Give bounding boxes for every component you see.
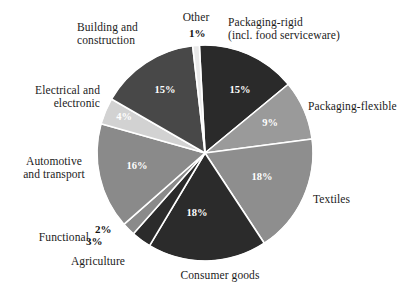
slice-label-consumer-goods: Consumer goods: [150, 269, 290, 282]
slice-label-packaging-flexible: Packaging-flexible: [308, 100, 416, 113]
slice-label-functional: Functional: [14, 231, 89, 244]
slice-label-packaging-rigid: Packaging-rigid (incl. food serviceware): [228, 16, 413, 42]
slice-percent-building-and-construction: 15%: [155, 84, 176, 95]
pie-chart-canvas: 15%9%18%18%16%4%15%: [0, 0, 416, 296]
slice-label-electrical-and-electronic: Electrical and electronic: [8, 84, 100, 110]
slice-percent-functional: 2%: [95, 223, 112, 235]
slice-label-other: Other: [166, 11, 226, 24]
slice-percent-other: 1%: [189, 27, 206, 39]
slice-label-automotive-and-transport: Automotive and transport: [6, 155, 102, 181]
slice-percent-packaging-flexible: 9%: [262, 117, 278, 128]
slice-percent-packaging-rigid: 15%: [230, 84, 251, 95]
slice-label-textiles: Textiles: [313, 193, 383, 206]
slice-label-building-and-construction: Building and construction: [77, 21, 177, 47]
pie-chart-figure: 15%9%18%18%16%4%15% Packaging-rigid (inc…: [0, 0, 416, 296]
slice-percent-automotive-and-transport: 16%: [127, 160, 148, 171]
slice-percent-consumer-goods: 18%: [187, 207, 208, 218]
slice-percent-electrical-and-electronic: 4%: [116, 111, 132, 122]
slice-label-agriculture: Agriculture: [50, 255, 146, 268]
slice-percent-textiles: 18%: [252, 171, 273, 182]
